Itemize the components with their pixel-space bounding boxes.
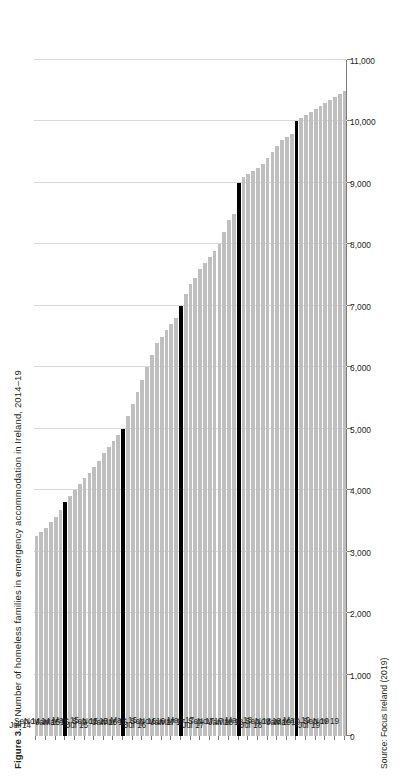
bar — [150, 355, 154, 736]
category-tick — [305, 736, 306, 740]
bar — [54, 517, 58, 736]
bar — [63, 502, 67, 736]
bar — [208, 257, 212, 736]
value-tick-label: 8,000 — [350, 240, 371, 250]
figure-title: Figure 3.1: Number of homeless families … — [12, 370, 23, 769]
bar — [97, 461, 101, 736]
category-tick — [170, 736, 171, 740]
bar — [222, 232, 226, 736]
category-tick — [35, 736, 36, 740]
category-label: Nov 19 — [313, 717, 339, 726]
value-tick-label: 7,000 — [350, 302, 371, 312]
bar — [169, 324, 173, 736]
category-tick — [122, 736, 123, 740]
category-tick — [295, 736, 296, 740]
bar — [107, 447, 111, 736]
bar — [193, 278, 197, 736]
bar — [333, 97, 337, 736]
bar — [242, 177, 246, 736]
bar — [299, 118, 303, 736]
bar — [160, 337, 164, 736]
figure-title-text: Number of homeless families in emergency… — [12, 370, 23, 719]
category-tick — [190, 736, 191, 740]
bar — [121, 429, 125, 736]
bar-series — [34, 60, 347, 736]
category-tick — [180, 736, 181, 740]
bar — [314, 109, 318, 736]
bar — [165, 330, 169, 736]
value-tick-label: 9,000 — [350, 179, 371, 189]
category-tick — [93, 736, 94, 740]
bar — [328, 100, 332, 736]
category-tick — [112, 736, 113, 740]
bar — [59, 510, 63, 736]
category-tick — [64, 736, 65, 740]
bar — [261, 164, 265, 736]
bar — [319, 106, 323, 736]
category-tick — [286, 736, 287, 740]
bar — [179, 306, 183, 736]
bar — [39, 532, 43, 736]
bar — [126, 416, 130, 736]
bar — [198, 269, 202, 736]
bar — [213, 251, 217, 736]
category-tick — [84, 736, 85, 740]
bar — [92, 467, 96, 736]
category-tick — [218, 736, 219, 740]
value-tick-label: 6,000 — [350, 363, 371, 373]
bar — [251, 171, 255, 736]
value-tick-label: 10,000 — [350, 117, 376, 127]
category-tick — [334, 736, 335, 740]
category-tick — [228, 736, 229, 740]
category-tick — [257, 736, 258, 740]
bar — [323, 103, 327, 736]
bar — [174, 318, 178, 736]
bar — [275, 146, 279, 736]
bar — [49, 522, 53, 736]
bar — [309, 112, 313, 736]
bar — [184, 294, 188, 736]
bar — [116, 435, 120, 736]
category-tick — [315, 736, 316, 740]
bar — [131, 404, 135, 736]
value-tick-label: 2,000 — [350, 609, 371, 619]
category-tick — [199, 736, 200, 740]
category-tick — [45, 736, 46, 740]
category-tick — [74, 736, 75, 740]
category-tick — [344, 736, 345, 740]
value-tick-label: 3,000 — [350, 548, 371, 558]
value-tick-label: 4,000 — [350, 486, 371, 496]
bar — [256, 168, 260, 736]
bar — [73, 490, 77, 736]
category-tick — [247, 736, 248, 740]
bar — [68, 496, 72, 736]
bar — [35, 536, 39, 736]
category-tick — [55, 736, 56, 740]
chart-plot-area: 01,0002,0003,0004,0005,0006,0007,0008,00… — [34, 60, 347, 736]
bar — [285, 137, 289, 736]
bar — [338, 94, 342, 736]
category-tick — [267, 736, 268, 740]
bar — [237, 183, 241, 736]
bar — [189, 284, 193, 736]
category-tick — [103, 736, 104, 740]
bar — [266, 158, 270, 736]
bar — [232, 214, 236, 736]
bar — [227, 220, 231, 736]
bar — [155, 343, 159, 736]
category-tick — [209, 736, 210, 740]
bar — [44, 528, 48, 736]
category-tick — [276, 736, 277, 740]
bar — [304, 115, 308, 736]
category-tick — [161, 736, 162, 740]
bar — [78, 484, 82, 736]
bar — [136, 392, 140, 736]
bar — [218, 244, 222, 736]
bar — [140, 380, 144, 736]
category-tick — [238, 736, 239, 740]
value-tick-label: 5,000 — [350, 425, 371, 435]
bar — [88, 473, 92, 736]
bar — [246, 174, 250, 736]
bar — [102, 453, 106, 736]
bar — [271, 152, 275, 736]
